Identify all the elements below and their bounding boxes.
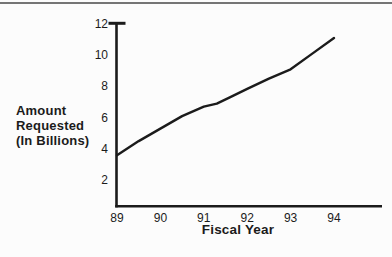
x-axis-title: Fiscal Year xyxy=(158,222,318,237)
y-tick-label: 4 xyxy=(0,143,108,155)
y-tick-label: 12 xyxy=(0,18,108,30)
y-tick-label: 8 xyxy=(0,80,108,92)
data-line xyxy=(117,38,334,155)
y-tick-label: 2 xyxy=(0,174,108,186)
y-tick-label: 6 xyxy=(0,112,108,124)
x-tick-label: 89 xyxy=(101,212,133,224)
x-tick-label: 94 xyxy=(318,212,350,224)
y-tick-label: 10 xyxy=(0,49,108,61)
chart-page: Amount Requested (In Billions) 24681012 … xyxy=(0,0,392,257)
